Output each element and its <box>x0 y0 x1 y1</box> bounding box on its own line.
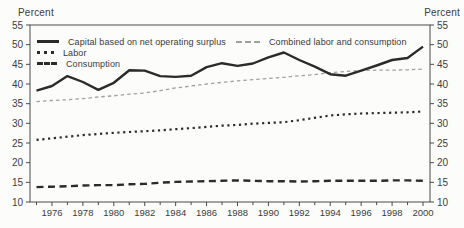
y-tick-label-left: 25 <box>12 138 24 149</box>
labor-line-sample-icon <box>37 51 54 54</box>
x-tick-label: 1996 <box>351 207 372 218</box>
x-tick-label: 1994 <box>320 207 341 218</box>
x-tick-label: 1984 <box>165 207 186 218</box>
x-tick-label: 2000 <box>412 207 433 218</box>
y-tick-label-left: 45 <box>12 59 24 70</box>
combined-line-sample-icon <box>236 41 260 43</box>
series-line-dashed <box>37 180 424 187</box>
y-tick-label-right: 20 <box>437 157 449 168</box>
legend-item-labor: Labor <box>37 47 226 58</box>
legend-item-consumption: Consumption <box>37 58 226 69</box>
y-tick-label-right: 45 <box>437 59 449 70</box>
x-tick-label: 1992 <box>289 207 310 218</box>
y-tick-label-left: 55 <box>12 20 24 31</box>
x-tick-label: 1978 <box>72 207 93 218</box>
y-tick-label-right: 10 <box>437 197 449 208</box>
legend-label-capital: Capital based on net operating surplus <box>68 37 226 47</box>
y-tick-label-right: 15 <box>437 177 449 188</box>
capital-line-sample-icon <box>37 40 59 43</box>
x-tick-label: 1986 <box>196 207 217 218</box>
legend-item-capital: Capital based on net operating surplus <box>37 36 226 47</box>
y-tick-label-right: 25 <box>437 138 449 149</box>
legend: Capital based on net operating surplus L… <box>37 36 226 69</box>
y-tick-label-right: 40 <box>437 79 449 90</box>
consumption-line-sample-icon <box>37 62 57 65</box>
y-tick-label-right: 30 <box>437 118 449 129</box>
legend-item-combined: Combined labor and consumption <box>236 36 407 47</box>
y-tick-label-left: 30 <box>12 118 24 129</box>
y-tick-label-right: 50 <box>437 39 449 50</box>
x-tick-label: 1998 <box>382 207 403 218</box>
plot-area: 1010151520202525303035354040454550505555… <box>0 0 464 228</box>
y-tick-label-right: 55 <box>437 20 449 31</box>
x-tick-label: 1990 <box>258 207 279 218</box>
y-tick-label-left: 35 <box>12 98 24 109</box>
y-tick-label-left: 50 <box>12 39 24 50</box>
average-tax-rates-chart: Percent Percent 101015152020252530303535… <box>0 0 464 228</box>
series-line-finedash <box>37 69 424 102</box>
x-tick-label: 1988 <box>227 207 248 218</box>
x-tick-label: 1976 <box>41 207 62 218</box>
legend-combined: Combined labor and consumption <box>236 36 407 47</box>
y-tick-label-left: 15 <box>12 177 24 188</box>
x-tick-label: 1982 <box>134 207 155 218</box>
y-tick-label-left: 40 <box>12 79 24 90</box>
legend-label-labor: Labor <box>63 48 87 58</box>
y-tick-label-left: 20 <box>12 157 24 168</box>
legend-label-combined: Combined labor and consumption <box>269 37 407 47</box>
y-tick-label-left: 10 <box>12 197 24 208</box>
x-tick-label: 1980 <box>103 207 124 218</box>
series-line-dotted <box>37 112 424 140</box>
y-tick-label-right: 35 <box>437 98 449 109</box>
legend-label-consumption: Consumption <box>66 59 120 69</box>
